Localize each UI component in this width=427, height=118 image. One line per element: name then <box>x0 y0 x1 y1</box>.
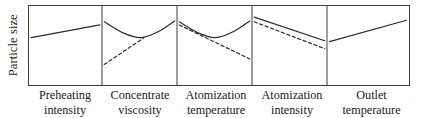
x-axis-label-3: Atomizationtemperature <box>178 87 254 117</box>
panel-5 <box>329 20 406 41</box>
x-axis-label-5: Outlettemperature <box>330 87 413 117</box>
panel-2 <box>104 21 175 64</box>
panel-2-solid-trace <box>104 21 175 38</box>
y-axis-label: Particle size <box>7 14 20 76</box>
x-axis-label-2-line1: Concentrate <box>102 88 178 103</box>
x-axis-label-1-line2: intensity <box>28 103 102 118</box>
panel-3-solid-trace <box>179 21 250 38</box>
panel-1-solid-trace <box>31 25 100 38</box>
main-effects-figure: Particle size PreheatingintensityConcent… <box>0 0 427 117</box>
x-axis-labels-row: PreheatingintensityConcentrateviscosityA… <box>28 87 410 117</box>
panel-4-solid-trace <box>254 17 325 41</box>
x-axis-label-2: Concentrateviscosity <box>102 87 178 117</box>
plot-canvas <box>29 6 409 85</box>
x-axis-label-3-line1: Atomization <box>178 88 254 103</box>
x-axis-label-4-line1: Atomization <box>254 88 330 103</box>
x-axis-label-2-line2: viscosity <box>102 103 178 118</box>
x-axis-label-1: Preheatingintensity <box>28 87 102 117</box>
panel-3 <box>179 21 250 59</box>
x-axis-label-5-line2: temperature <box>330 103 413 118</box>
plot-frame <box>28 5 410 86</box>
x-axis-label-3-line2: temperature <box>178 103 254 118</box>
x-axis-label-1-line1: Preheating <box>28 88 102 103</box>
panel-1 <box>31 25 100 38</box>
panel-5-solid-trace <box>329 20 406 41</box>
y-axis-label-container: Particle size <box>0 5 26 86</box>
x-axis-label-4: Atomizationintensity <box>254 87 330 117</box>
panel-4-dashed-trace <box>254 22 325 49</box>
panel-4 <box>254 17 325 49</box>
panel-3-dashed-trace <box>179 25 250 59</box>
panel-2-dashed-trace <box>104 38 143 64</box>
x-axis-label-4-line2: intensity <box>254 103 330 118</box>
x-axis-label-5-line1: Outlet <box>330 88 413 103</box>
